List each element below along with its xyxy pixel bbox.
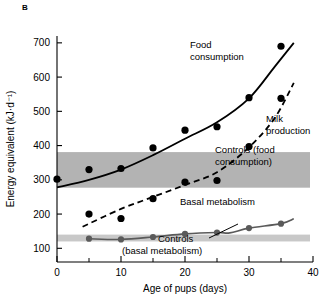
- datapoint-milk-production-15: [149, 195, 156, 202]
- annotation-basal-metabolism: Basal metabolism: [180, 196, 255, 207]
- datapoint-food-consumption-35: [277, 43, 284, 50]
- x-tick-label-30: 30: [243, 267, 255, 278]
- controls-basal-label-line2: (basal metabolism): [122, 245, 202, 256]
- controls-basal-label-line1: Controls: [158, 233, 194, 244]
- x-tick-label-10: 10: [115, 267, 127, 278]
- y-tick-label-500: 500: [33, 106, 50, 117]
- datapoint-milk-production-20: [181, 179, 188, 186]
- y-tick-label-200: 200: [33, 209, 50, 220]
- datapoint-food-consumption-0: [53, 176, 60, 183]
- x-axis-ticks: [57, 256, 313, 262]
- datapoint-milk-production-10: [117, 215, 124, 222]
- datapoint-milk-production-5: [85, 210, 92, 217]
- basal-metabolism-label: Basal metabolism: [180, 196, 255, 207]
- datapoint-food-consumption-5: [85, 166, 92, 173]
- datapoint-food-consumption-30: [245, 94, 252, 101]
- food-consumption-label-line2: consumption: [190, 51, 244, 62]
- band-label-controls-food: Controls (food consumption): [215, 144, 275, 167]
- panel-letter: B: [22, 3, 28, 12]
- y-tick-label-300: 300: [33, 174, 50, 185]
- datapoint-food-consumption-25: [213, 123, 220, 130]
- datapoint-basal-metabolism-15: [150, 234, 156, 240]
- figure-panel-b: B 100200300400500600700 010203040: [0, 0, 327, 305]
- x-axis-title: Age of pups (days): [143, 283, 227, 294]
- datapoint-milk-production-25: [213, 177, 220, 184]
- x-tick-label-0: 0: [54, 267, 60, 278]
- x-tick-label-20: 20: [179, 267, 191, 278]
- datapoint-basal-metabolism-10: [118, 236, 124, 242]
- annotation-milk-production: Milk production: [266, 113, 310, 136]
- chart-canvas: 100200300400500600700 010203040 Food con…: [0, 0, 327, 305]
- y-tick-label-600: 600: [33, 72, 50, 83]
- datapoint-basal-metabolism-35: [278, 221, 284, 227]
- x-tick-label-40: 40: [307, 267, 319, 278]
- food-consumption-label-line1: Food: [190, 39, 212, 50]
- datapoint-food-consumption-20: [181, 127, 188, 134]
- y-tick-label-700: 700: [33, 37, 50, 48]
- y-axis-ticks: [57, 43, 62, 248]
- x-axis-tick-labels: 010203040: [54, 267, 319, 278]
- datapoint-basal-metabolism-30: [246, 225, 252, 231]
- datapoint-food-consumption-15: [149, 144, 156, 151]
- y-axis-title: Energy equivalent (kJ·d⁻¹): [5, 91, 16, 208]
- milk-production-label-line2: production: [266, 125, 310, 136]
- controls-food-label-line2: consumption): [215, 156, 272, 167]
- y-axis-tick-labels: 100200300400500600700: [33, 37, 50, 253]
- datapoint-food-consumption-10: [117, 165, 124, 172]
- y-tick-label-100: 100: [33, 243, 50, 254]
- y-tick-label-400: 400: [33, 140, 50, 151]
- milk-production-label-line1: Milk: [266, 113, 283, 124]
- datapoint-basal-metabolism-5: [86, 236, 92, 242]
- annotation-food-consumption: Food consumption: [190, 39, 244, 62]
- datapoint-milk-production-35: [277, 95, 284, 102]
- controls-food-label-line1: Controls (food: [215, 144, 275, 155]
